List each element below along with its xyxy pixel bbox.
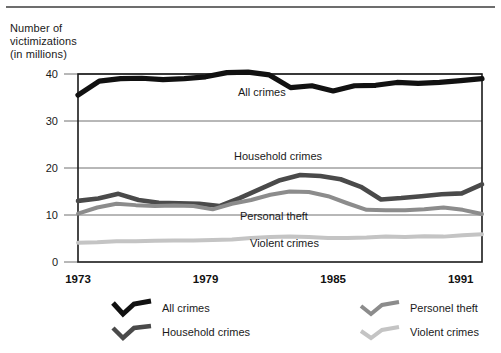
legend-item[interactable]: All crimes [110,296,300,320]
inline-series-label: All crimes [238,86,286,98]
legend-swatch-icon [358,322,402,342]
legend-item[interactable]: Personel theft [358,296,501,320]
y-tick-label: 10 [46,209,58,221]
inline-series-label: Violent crimes [250,237,319,249]
x-tick-label: 1973 [65,273,91,285]
legend-item-label: Household crimes [162,326,250,338]
inline-series-label: Household crimes [234,150,323,162]
y-tick-label: 0 [52,256,58,268]
gridlines [64,74,482,262]
x-axis-ticks: 1973197919851991 [65,273,474,285]
y-tick-label: 40 [46,68,58,80]
inline-series-label: Personal theft [240,210,308,222]
legend-swatch-icon [358,298,402,318]
x-tick-label: 1991 [448,273,474,285]
y-tick-label: 30 [46,115,58,127]
legend-item[interactable]: Household crimes [110,320,300,344]
legend-column-right: Personel theft Violent crimes [358,296,501,344]
legend-item-label: Violent crimes [410,326,479,338]
legend-item-label: Personel theft [410,302,478,314]
chart-legend: All crimes Household crimes Personel the… [110,296,490,346]
x-tick-label: 1985 [320,273,346,285]
legend-item[interactable]: Violent crimes [358,320,501,344]
legend-item-label: All crimes [162,302,210,314]
series-line [78,175,482,206]
legend-column-left: All crimes Household crimes [110,296,300,344]
legend-swatch-icon [110,322,154,342]
chart-page: Number of victimizations (in millions) 0… [0,0,501,353]
x-tick-label: 1979 [193,273,219,285]
y-axis-ticks: 010203040 [46,68,58,268]
legend-swatch-icon [110,298,154,318]
y-tick-label: 20 [46,162,58,174]
